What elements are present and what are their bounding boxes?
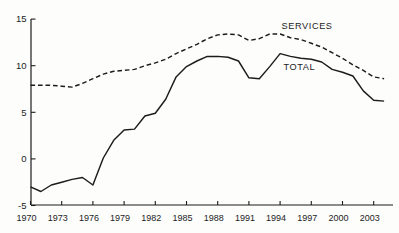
y-tick-label: 5 [21,107,26,118]
services-line [31,34,385,87]
y-tick-label: 15 [16,13,27,24]
x-tick-label: 1979 [110,213,130,223]
x-tick-label: 1994 [266,213,286,223]
x-tick-label: 1997 [297,213,317,223]
x-tick-label: 2000 [328,213,348,223]
chart-figure: 151050-519701973197619791982198519881991… [0,0,399,233]
x-tick-label: 1982 [141,213,161,223]
x-tick-label: 1970 [16,213,36,223]
total-line [31,54,385,192]
x-tick-label: 1973 [48,213,68,223]
total-series-label: TOTAL [284,62,316,72]
x-tick-label: 1985 [172,213,192,223]
x-tick-label: 1991 [235,213,255,223]
series-lines [31,34,385,192]
y-tick-label: -5 [18,200,26,211]
line-chart: 151050-519701973197619791982198519881991… [0,0,399,233]
services-series-label: SERVICES [282,21,333,31]
x-tick-label: 1976 [79,213,99,223]
x-tick-label: 2003 [360,213,380,223]
x-tick-label: 1988 [204,213,224,223]
y-tick-label: 0 [21,153,26,164]
axes: 151050-519701973197619791982198519881991… [16,13,393,223]
y-tick-label: 10 [16,60,27,71]
